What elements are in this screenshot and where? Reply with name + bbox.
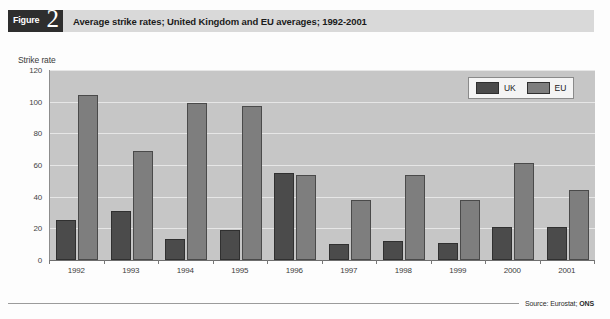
- bar-eu-1996: [296, 175, 316, 261]
- bar-eu-1998: [405, 175, 425, 261]
- x-axis-tick-1994: [158, 260, 159, 264]
- y-axis-tick-120: 120: [29, 66, 42, 75]
- x-axis-tick-2001: [540, 260, 541, 264]
- y-axis-tick-100: 100: [29, 97, 42, 106]
- legend-label-eu: EU: [555, 83, 567, 93]
- x-axis-tick-1995: [213, 260, 214, 264]
- x-axis-tick-1999: [431, 260, 432, 264]
- legend-swatch-uk-icon: [476, 82, 499, 94]
- bar-uk-1994: [165, 239, 185, 260]
- bar-group-1994: [159, 70, 214, 260]
- bar-eu-1995: [242, 106, 262, 260]
- source-organisation: ONS: [579, 300, 594, 307]
- y-axis-title: Strike rate: [18, 55, 56, 65]
- bar-eu-1997: [351, 200, 371, 260]
- bar-uk-2001: [547, 227, 567, 260]
- figure-badge-word: Figure: [13, 15, 39, 25]
- bar-group-1992: [50, 70, 105, 260]
- legend-item-eu[interactable]: EU: [527, 82, 567, 94]
- legend-label-uk: UK: [504, 83, 516, 93]
- bar-eu-2001: [569, 190, 589, 260]
- chart-plot-wrapper: 020406080100120 199219931994199519961997…: [18, 70, 594, 282]
- bar-uk-1997: [329, 244, 349, 260]
- bar-uk-1993: [111, 211, 131, 260]
- source-note: Source: Eurostat; ONS: [525, 300, 594, 307]
- figure-badge-number: 2: [47, 10, 60, 32]
- bar-group-1998: [377, 70, 432, 260]
- bar-uk-1995: [220, 230, 240, 260]
- y-axis-tick-labels: 020406080100120: [18, 70, 46, 260]
- bar-group-1993: [105, 70, 160, 260]
- bar-uk-1998: [383, 241, 403, 260]
- bar-group-1995: [214, 70, 269, 260]
- x-axis-label-1997: 1997: [340, 266, 357, 275]
- legend-item-uk[interactable]: UK: [476, 82, 516, 94]
- bar-uk-1996: [274, 173, 294, 260]
- x-axis-label-1993: 1993: [122, 266, 139, 275]
- bar-eu-1992: [78, 95, 98, 260]
- bar-eu-1994: [187, 103, 207, 260]
- bar-uk-2000: [492, 227, 512, 260]
- x-axis-label-1999: 1999: [449, 266, 466, 275]
- x-axis-tick-end: [594, 260, 595, 264]
- x-axis-tick-2000: [485, 260, 486, 264]
- y-axis-tick-80: 80: [34, 129, 43, 138]
- figure-number-badge: Figure 2: [8, 10, 63, 32]
- legend-swatch-eu-icon: [527, 82, 550, 94]
- y-axis-tick-0: 0: [38, 256, 42, 265]
- bar-group-1997: [323, 70, 378, 260]
- bar-uk-1999: [438, 243, 458, 260]
- x-axis-tick-1998: [376, 260, 377, 264]
- x-axis-tick-1992: [49, 260, 50, 264]
- x-axis: 1992199319941995199619971998199920002001: [49, 260, 594, 282]
- source-prefix: Source: Eurostat;: [525, 300, 579, 307]
- y-axis-tick-40: 40: [34, 192, 43, 201]
- x-axis-label-1996: 1996: [286, 266, 303, 275]
- bar-group-1996: [268, 70, 323, 260]
- bar-eu-1993: [133, 151, 153, 260]
- y-axis-tick-60: 60: [34, 161, 43, 170]
- x-axis-tick-1997: [322, 260, 323, 264]
- x-axis-tick-1996: [267, 260, 268, 264]
- figure-root: Figure 2 Average strike rates; United Ki…: [0, 0, 610, 319]
- bar-eu-2000: [514, 163, 534, 260]
- figure-header-band: Figure 2 Average strike rates; United Ki…: [8, 10, 594, 32]
- bar-uk-1992: [56, 220, 76, 260]
- source-row: Source: Eurostat; ONS: [8, 300, 594, 307]
- x-axis-label-1998: 1998: [395, 266, 412, 275]
- x-axis-label-2001: 2001: [558, 266, 575, 275]
- x-axis-tick-1993: [104, 260, 105, 264]
- bar-eu-1999: [460, 200, 480, 260]
- y-axis-tick-20: 20: [34, 224, 43, 233]
- x-axis-label-1992: 1992: [68, 266, 85, 275]
- x-axis-label-1994: 1994: [177, 266, 194, 275]
- x-axis-label-1995: 1995: [231, 266, 248, 275]
- x-axis-label-2000: 2000: [504, 266, 521, 275]
- source-divider: [8, 303, 519, 304]
- figure-title: Average strike rates; United Kingdom and…: [73, 16, 367, 27]
- chart-legend: UKEU: [468, 77, 574, 99]
